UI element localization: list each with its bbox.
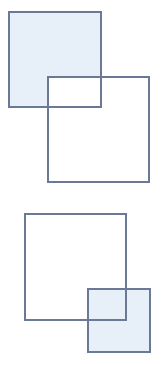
bottom-pair <box>25 214 150 352</box>
square-b-fill <box>48 77 149 182</box>
overlapping-squares-diagram <box>0 0 165 365</box>
top-pair <box>9 12 149 182</box>
